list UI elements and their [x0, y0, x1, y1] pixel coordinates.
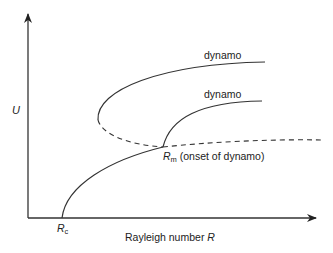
onset-subscript: m	[171, 155, 177, 164]
unstable-branch-right	[163, 140, 322, 147]
y-axis-label: U	[12, 104, 20, 116]
convection-branch	[62, 147, 163, 218]
dynamo-label-upper: dynamo	[204, 49, 241, 61]
onset-symbol: R	[163, 150, 171, 162]
onset-description: (onset of dynamo)	[180, 150, 265, 162]
dynamo-branch-lower	[163, 101, 262, 147]
x-axis-label: Rayleigh number R	[125, 231, 215, 243]
x-axis-symbol: R	[207, 231, 215, 243]
unstable-fold-branch	[98, 120, 163, 147]
dynamo-label-lower: dynamo	[204, 88, 241, 100]
critical-symbol: R	[57, 222, 65, 234]
critical-label: Rc	[57, 222, 68, 236]
onset-label: Rm (onset of dynamo)	[163, 150, 264, 164]
bifurcation-plot	[0, 0, 333, 253]
x-axis-label-text: Rayleigh number	[125, 231, 204, 243]
critical-subscript: c	[65, 227, 69, 236]
